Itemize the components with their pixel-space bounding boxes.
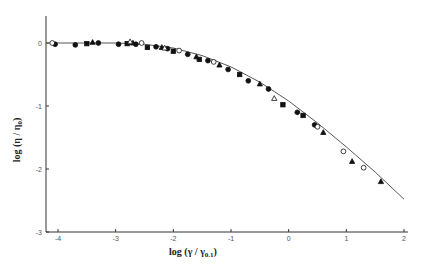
data-point xyxy=(171,49,175,53)
data-point xyxy=(272,96,277,101)
chart: 0-1-2-3 -4-3-2-1012 log (γ / γ0.1) log (… xyxy=(0,0,423,264)
data-point xyxy=(73,42,78,47)
axes xyxy=(46,16,408,232)
data-point xyxy=(145,45,149,49)
data-point xyxy=(341,149,346,154)
x-tick-label: 2 xyxy=(402,235,406,242)
data-point xyxy=(315,124,320,129)
x-axis-title: log (γ / γ0.1) xyxy=(169,246,217,259)
fit-curve-line xyxy=(47,43,405,199)
data-point xyxy=(206,58,211,63)
data-point xyxy=(139,41,144,46)
data-point xyxy=(295,110,300,115)
data-point xyxy=(50,41,55,46)
x-tick-label: -2 xyxy=(170,235,176,242)
data-point xyxy=(211,60,216,65)
data-point xyxy=(350,159,355,164)
data-point xyxy=(85,41,89,45)
data-points xyxy=(50,39,384,184)
data-point xyxy=(177,48,182,53)
fit-curve xyxy=(47,43,405,199)
y-axis-title: log (η / η0) xyxy=(11,118,24,163)
data-point xyxy=(96,41,101,46)
series-triangle-filled xyxy=(90,40,384,184)
data-point xyxy=(321,130,326,135)
data-point xyxy=(116,42,121,47)
data-point xyxy=(266,87,271,92)
series-circle-filled xyxy=(53,41,317,128)
data-point xyxy=(237,72,241,76)
x-tick-label: 1 xyxy=(344,235,348,242)
x-tick-label: -1 xyxy=(228,235,234,242)
data-point xyxy=(90,40,95,45)
x-tick-label: -4 xyxy=(55,235,61,242)
y-tick-label: -1 xyxy=(36,103,42,110)
y-tick-label: -3 xyxy=(36,229,42,236)
x-ticks: -4-3-2-1012 xyxy=(55,229,406,242)
data-point xyxy=(246,78,251,83)
y-tick-label: 0 xyxy=(38,40,42,47)
y-tick-label: -2 xyxy=(36,166,42,173)
data-point xyxy=(154,44,159,49)
data-point xyxy=(301,113,305,117)
x-tick-label: 0 xyxy=(287,235,291,242)
y-ticks: 0-1-2-3 xyxy=(36,40,49,236)
data-point xyxy=(361,165,366,170)
data-point xyxy=(185,52,190,57)
x-tick-label: -3 xyxy=(113,235,119,242)
data-point xyxy=(281,103,285,107)
data-point xyxy=(226,67,231,72)
series-square-filled xyxy=(85,41,306,117)
